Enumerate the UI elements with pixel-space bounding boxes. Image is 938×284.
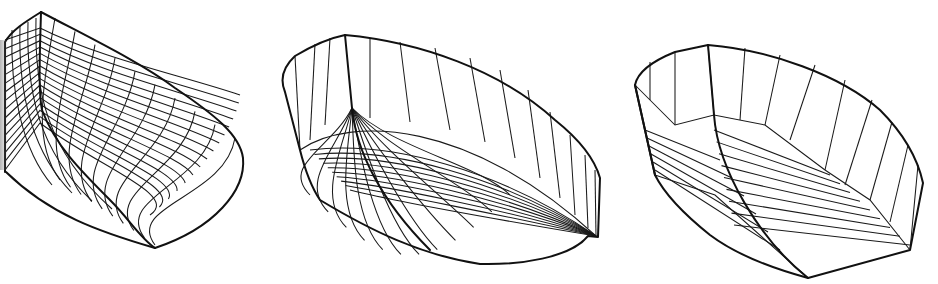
edge-shadow [0, 40, 8, 170]
hull-1-wireframe [0, 0, 260, 284]
hull-3-wireframe [620, 0, 938, 284]
hard-chine-hull-drawing [620, 0, 938, 284]
vertical-topside-hull-drawing [270, 0, 610, 284]
hull-2-wireframe [270, 0, 610, 284]
round-bilge-hull-drawing [0, 0, 260, 284]
